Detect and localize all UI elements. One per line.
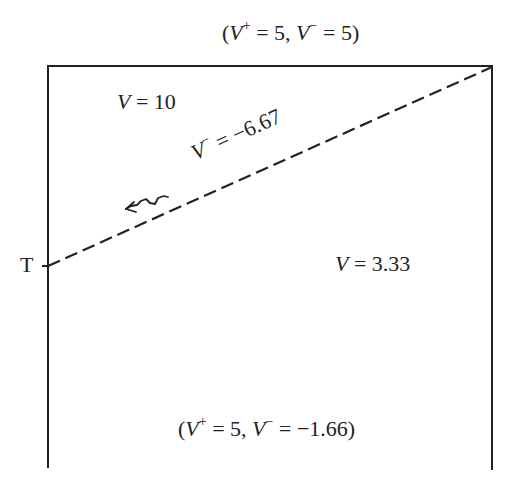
point-t-label: T — [20, 254, 33, 276]
minus-superscript: − — [266, 414, 274, 429]
plus-superscript: + — [243, 18, 251, 33]
minus-superscript: − — [310, 18, 318, 33]
v-symbol: V — [117, 89, 130, 114]
v-value: = 10 — [130, 89, 175, 114]
v-symbol: V — [335, 251, 348, 276]
v-plus-value: = 5, — [251, 20, 296, 45]
upper-region-label: V = 10 — [117, 91, 176, 113]
v-minus-value: = 5) — [317, 20, 359, 45]
v-minus-symbol: V — [296, 20, 309, 45]
v-plus-symbol: V — [185, 416, 198, 441]
wavy-arrow-icon — [126, 196, 168, 212]
v-plus-value: = 5, — [207, 416, 252, 441]
top-boundary-label: (V+ = 5, V− = 5) — [222, 22, 359, 44]
v-value: = 3.33 — [348, 251, 410, 276]
bottom-boundary-label: (V+ = 5, V− = −1.66) — [178, 418, 355, 440]
discontinuity-dashed-line — [48, 67, 492, 266]
lower-region-label: V = 3.33 — [335, 253, 410, 275]
plus-superscript: + — [199, 414, 207, 429]
v-minus-symbol: V — [252, 416, 265, 441]
v-plus-symbol: V — [229, 20, 242, 45]
v-minus-value: = −1.66) — [273, 416, 355, 441]
